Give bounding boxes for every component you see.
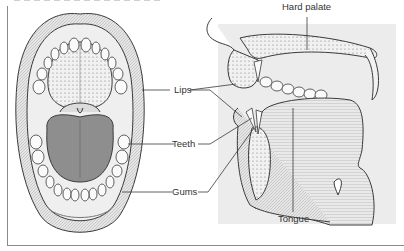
sagittal-view [207, 17, 396, 225]
label-hard-palate: Hard palate [282, 1, 331, 12]
label-tongue: Tongue [278, 213, 309, 224]
label-gums: Gums [172, 186, 197, 197]
front-view [16, 14, 144, 233]
label-lips: Lips [174, 84, 191, 95]
label-teeth: Teeth [172, 138, 195, 149]
